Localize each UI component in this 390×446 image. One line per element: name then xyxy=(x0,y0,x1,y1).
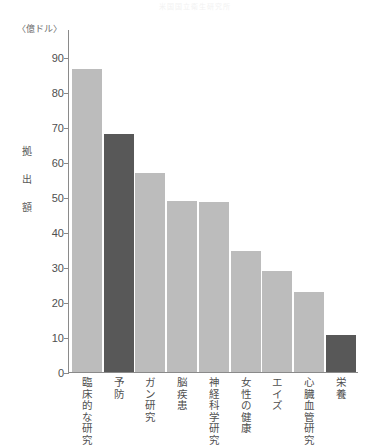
bar xyxy=(72,69,102,372)
y-axis-tick xyxy=(64,303,69,304)
y-axis-tick-label: 10 xyxy=(24,332,64,344)
y-axis-tick xyxy=(64,163,69,164)
y-axis-tick-label: 70 xyxy=(24,122,64,134)
bar xyxy=(104,134,134,372)
y-axis-tick-label: 0 xyxy=(24,367,64,379)
y-axis-tick xyxy=(64,58,69,59)
bar xyxy=(199,202,229,372)
y-axis-tick xyxy=(64,93,69,94)
x-axis-category-label: 女 性 の 健 康 xyxy=(231,377,261,435)
y-axis-tick xyxy=(64,198,69,199)
y-axis-tick xyxy=(64,268,69,269)
y-axis-tick-label: 90 xyxy=(24,52,64,64)
x-axis-category-label: エ イ ズ xyxy=(262,377,292,412)
y-axis-tick xyxy=(64,338,69,339)
bar xyxy=(294,292,324,373)
y-axis-tick-label: 60 xyxy=(24,157,64,169)
y-axis-tick-label: 20 xyxy=(24,297,64,309)
plot-area: 0102030405060708090 xyxy=(68,30,358,373)
x-axis-category-label: 予 防 xyxy=(104,377,134,400)
chart-title: 米国国立衛生研究所 xyxy=(0,1,390,11)
bar-series xyxy=(68,30,358,372)
y-axis-tick-label: 30 xyxy=(24,262,64,274)
y-axis-tick xyxy=(64,373,69,374)
x-axis-category-label: 心 臓 血 管 研 究 xyxy=(294,377,324,446)
x-axis-category-label: 脳 疾 患 xyxy=(167,377,197,412)
y-axis-tick-label: 40 xyxy=(24,227,64,239)
bar xyxy=(262,271,292,373)
bar xyxy=(231,251,261,372)
bar xyxy=(326,335,356,372)
y-axis-tick-labels: 0102030405060708090 xyxy=(20,30,64,373)
x-axis-category-label: ガ ン 研 究 xyxy=(135,377,165,423)
x-axis-category-label: 神 経 科 学 研 究 xyxy=(199,377,229,446)
y-axis-tick-label: 50 xyxy=(24,192,64,204)
y-axis-tick xyxy=(64,128,69,129)
bar xyxy=(135,173,165,373)
y-axis-tick-label: 80 xyxy=(24,87,64,99)
x-axis-category-label: 臨 床 的 な 研 究 xyxy=(72,377,102,446)
y-axis-tick xyxy=(64,233,69,234)
x-axis-line xyxy=(68,372,358,373)
x-axis-category-labels: 臨 床 的 な 研 究予 防ガ ン 研 究脳 疾 患神 経 科 学 研 究女 性… xyxy=(68,377,358,441)
bar xyxy=(167,201,197,373)
x-axis-category-label: 栄 養 xyxy=(326,377,356,400)
